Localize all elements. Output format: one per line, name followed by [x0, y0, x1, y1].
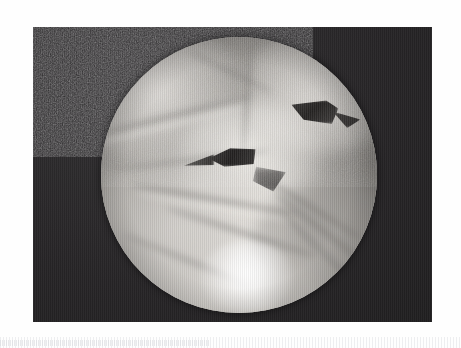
photographic-plate	[33, 27, 432, 322]
scanner-stripe-band-left	[0, 340, 210, 346]
endoscope-field-of-view	[101, 37, 377, 313]
page-canvas	[0, 0, 461, 348]
scope-vignette	[101, 37, 377, 313]
